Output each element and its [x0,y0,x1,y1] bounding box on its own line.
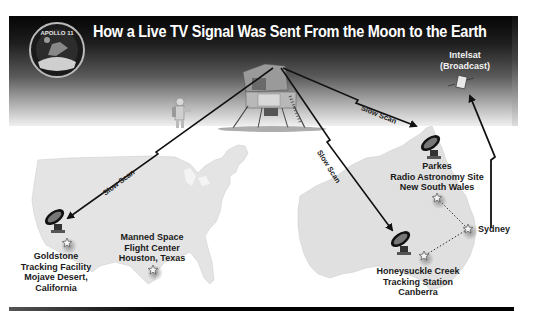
page-title: How a Live TV Signal Was Sent From the M… [93,22,487,41]
sydney-label: Sydney [478,224,510,235]
goldstone-line-1: Goldstone [6,251,106,262]
honeysuckle-line-1: Honeysuckle Creek [368,266,468,277]
goldstone-line-2: Tracking Facility [6,262,106,273]
goldstone-line-4: California [6,283,106,294]
intelsat-name: Intelsat [440,50,490,61]
houston-line-2: Flight Center [112,243,192,254]
intelsat-label: Intelsat (Broadcast) [440,50,490,71]
intelsat-satellite-icon [448,75,474,89]
apollo-badge-text: APOLLO 11 [40,30,74,36]
goldstone-label: Goldstone Tracking Facility Mojave Deser… [6,251,106,293]
parkes-line-2: Radio Astronomy Site [382,172,492,183]
parkes-label: Parkes Radio Astronomy Site New South Wa… [382,161,492,193]
honeysuckle-label: Honeysuckle Creek Tracking Station Canbe… [368,266,468,298]
houston-line-1: Manned Space [112,232,192,243]
parkes-line-1: Parkes [382,161,492,172]
bottom-border [9,307,514,311]
houston-label: Manned Space Flight Center Houston, Texa… [112,232,192,264]
intelsat-role: (Broadcast) [440,61,490,72]
lunar-module-icon [218,64,326,132]
honeysuckle-line-3: Canberra [368,287,468,298]
goldstone-line-3: Mojave Desert, [6,272,106,283]
parkes-line-3: New South Wales [382,182,492,193]
astronaut-icon [172,98,191,128]
diagram-stage: APOLLO 11 [0,0,539,311]
houston-line-3: Houston, Texas [112,253,192,264]
honeysuckle-line-2: Tracking Station [368,277,468,288]
